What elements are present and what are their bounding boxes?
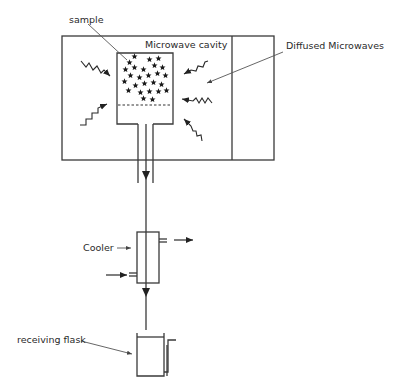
receiving-flask bbox=[137, 333, 176, 376]
microwave-extraction-diagram: sample Microwave cavity Diffused Microwa… bbox=[0, 0, 394, 389]
sample-vessel bbox=[117, 53, 173, 183]
label-diffused-microwaves: Diffused Microwaves bbox=[286, 40, 384, 51]
label-microwave-cavity: Microwave cavity bbox=[145, 39, 228, 50]
cooler bbox=[106, 232, 193, 283]
sample-leader-line bbox=[88, 24, 127, 60]
sample-particles bbox=[121, 53, 169, 102]
flow-arrow-icon bbox=[142, 288, 150, 297]
microwave-oven bbox=[62, 36, 274, 160]
label-receiving-flask: receiving flask bbox=[17, 334, 86, 345]
label-cooler: Cooler bbox=[83, 242, 114, 253]
flask-leader-line bbox=[81, 341, 132, 354]
flow-arrow-icon bbox=[142, 171, 150, 180]
label-sample: sample bbox=[69, 14, 104, 25]
diffused-leader-line bbox=[207, 52, 283, 83]
